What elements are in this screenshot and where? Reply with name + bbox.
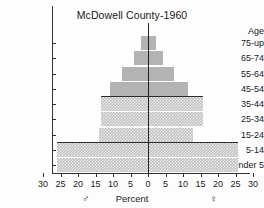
y-axis-title: Age — [214, 27, 264, 36]
y-axis-tick — [52, 104, 56, 105]
bar-male-45-54 — [110, 82, 149, 96]
x-axis-tick — [78, 173, 79, 177]
x-axis-label: 30 — [243, 179, 263, 189]
y-axis-label-25-34: 25-34 — [214, 115, 264, 124]
y-axis-tick — [52, 43, 56, 44]
bar-male-65-74 — [134, 51, 148, 65]
y-axis-tick — [52, 135, 56, 136]
x-axis-tick — [96, 173, 97, 177]
x-axis-tick — [218, 173, 219, 177]
bar-female-55-64 — [149, 67, 174, 81]
y-axis-label-55-64: 55-64 — [214, 70, 264, 79]
bar-female-25-34 — [149, 112, 203, 126]
female-symbol-icon: ♀ — [210, 193, 218, 204]
x-axis-tick — [166, 173, 167, 177]
rule-above-35-44 — [101, 96, 204, 97]
y-axis-tick — [52, 89, 56, 90]
bar-female-35-44 — [149, 97, 203, 111]
bar-male-25-34 — [101, 112, 148, 126]
bar-male-35-44 — [101, 97, 148, 111]
y-axis-label-75-up: 75-up — [214, 39, 264, 48]
plot-area: Age 75-up65-7455-6445-5435-4425-3415-245… — [0, 0, 264, 208]
x-axis-tick — [253, 173, 254, 177]
y-axis-tick — [52, 58, 56, 59]
y-axis-label-35-44: 35-44 — [214, 100, 264, 109]
bar-female-under-5 — [149, 158, 238, 172]
x-axis-title: Percent — [0, 193, 264, 204]
x-axis-tick — [183, 173, 184, 177]
y-axis-tick — [52, 165, 56, 166]
y-axis-label-65-74: 65-74 — [214, 54, 264, 63]
bar-female-5-14 — [149, 143, 238, 157]
y-axis-label-15-24: 15-24 — [214, 131, 264, 140]
x-axis-tick — [236, 173, 237, 177]
bar-female-75-up — [149, 36, 156, 50]
bar-female-15-24 — [149, 128, 193, 142]
x-axis-tick — [61, 173, 62, 177]
rule-above-5-14 — [57, 142, 238, 143]
x-axis-tick — [148, 173, 149, 177]
y-axis-tick — [52, 74, 56, 75]
x-axis-tick — [131, 173, 132, 177]
y-axis-tick — [52, 150, 56, 151]
bar-male-under-5 — [57, 158, 148, 172]
x-axis-tick — [201, 173, 202, 177]
bar-female-45-54 — [149, 82, 188, 96]
x-axis-baseline — [52, 173, 250, 174]
x-axis-tick — [43, 173, 44, 177]
bar-male-75-up — [141, 36, 148, 50]
bar-male-5-14 — [57, 143, 148, 157]
population-pyramid-chart: McDowell County-1960 Age 75-up65-7455-64… — [0, 0, 264, 208]
y-axis-tick — [52, 119, 56, 120]
bar-male-55-64 — [122, 67, 148, 81]
y-axis-label-45-54: 45-54 — [214, 85, 264, 94]
x-axis-tick — [113, 173, 114, 177]
male-symbol-icon: ♂ — [82, 193, 90, 204]
bar-female-65-74 — [149, 51, 163, 65]
bar-male-15-24 — [99, 128, 148, 142]
